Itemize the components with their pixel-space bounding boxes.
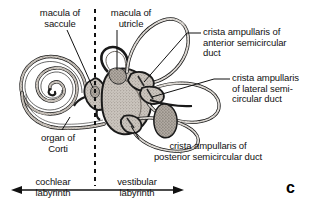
label-macula-of-utricle: macula of utricle bbox=[100, 8, 162, 29]
label-vestibular-labyrinth: vestibular labyrinth bbox=[100, 177, 174, 198]
endolymphatic-pouch bbox=[154, 104, 177, 138]
saccule-neck bbox=[97, 110, 100, 120]
label-macula-of-saccule: macula of saccule bbox=[24, 8, 96, 29]
panel-letter: c bbox=[286, 179, 295, 197]
label-crista-ampullaris-posterior: crista ampullaris of posterior semicircu… bbox=[123, 141, 293, 162]
leader-macula-saccule bbox=[67, 30, 93, 88]
label-crista-ampullaris-lateral: crista ampullaris of lateral semi- circu… bbox=[232, 73, 325, 105]
cochlea-apex bbox=[49, 89, 56, 95]
inner-ear-figure: macula of saccule macula of utricle cris… bbox=[0, 0, 325, 208]
label-crista-ampullaris-anterior: crista ampullaris of anterior semicircul… bbox=[203, 27, 325, 59]
macula-utricle-patch bbox=[109, 68, 126, 84]
axis-arrow-right bbox=[173, 186, 184, 194]
leader-crista-anterior bbox=[144, 33, 201, 82]
label-organ-of-corti: organ of Corti bbox=[28, 133, 88, 154]
label-cochlear-labyrinth: cochlear labyrinth bbox=[18, 177, 88, 198]
anterior-semicircular-duct bbox=[127, 19, 188, 91]
